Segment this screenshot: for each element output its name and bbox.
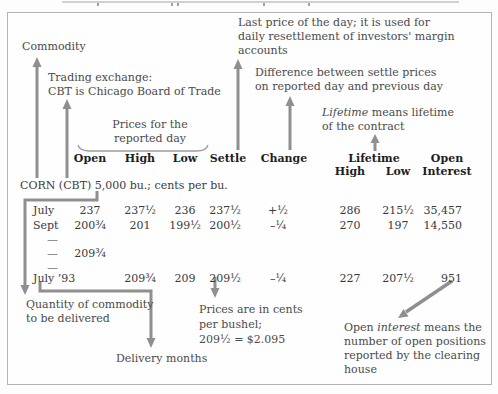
cell-high: 201 bbox=[116, 219, 164, 232]
table-row: Sept 200¾ 201 199½ 200½ –¼ 270 197 14,55… bbox=[0, 219, 498, 233]
interest-italic: interest bbox=[377, 321, 420, 334]
annotation-line: Open interest means the bbox=[344, 321, 486, 335]
annotation-line: daily resettlement of investors' margin bbox=[238, 30, 455, 44]
annotation-line: number of open positions bbox=[344, 335, 486, 349]
annotation-line: house bbox=[344, 363, 486, 377]
col-header-lifetime-high: High bbox=[326, 165, 374, 178]
annotation-line: Delivery months bbox=[116, 352, 207, 366]
cell-settle: 200½ bbox=[201, 219, 249, 232]
cents-note: Prices are in cents per bushel; 209½ = $… bbox=[199, 302, 303, 347]
annotation-text: means lifetime bbox=[368, 106, 454, 119]
cell-month: July ’93 bbox=[33, 272, 91, 285]
delivery-months-note: Delivery months bbox=[116, 352, 207, 366]
cell-high: 209¾ bbox=[116, 272, 164, 285]
cell-open-interest: 35,457 bbox=[400, 204, 462, 217]
annotation-line: of the contract bbox=[322, 120, 454, 134]
annotation-line: per bushel; bbox=[199, 317, 303, 332]
annotation-line: to be delivered bbox=[26, 312, 153, 326]
annotation-line: reported day bbox=[106, 132, 194, 146]
col-header-settle: Settle bbox=[201, 152, 255, 165]
quantity-note: Quantity of commodity to be delivered bbox=[26, 298, 153, 326]
annotation-line: Last price of the day; it is used for bbox=[238, 16, 455, 30]
cell-change: +½ bbox=[254, 204, 302, 217]
table-row: July 237 237½ 236 237½ +½ 286 215½ 35,45… bbox=[0, 204, 498, 218]
annotation-text: Open bbox=[344, 321, 377, 334]
annotation-line: Trading exchange: bbox=[48, 71, 221, 85]
col-header-lifetime-low: Low bbox=[374, 165, 422, 178]
table-row-ellipsis: — bbox=[0, 233, 498, 247]
cell-high: 237½ bbox=[116, 204, 164, 217]
cell-open: 200¾ bbox=[66, 219, 114, 232]
cell-settle: 209½ bbox=[201, 272, 249, 285]
lifetime-italic: Lifetime bbox=[322, 106, 368, 119]
table-row-ellipsis: — 209¾ bbox=[0, 247, 498, 261]
figure-canvas: Commodity Trading exchange: CBT is Chica… bbox=[0, 0, 498, 394]
lifetime-note: Lifetime means lifetime of the contract bbox=[322, 106, 454, 134]
table-row: July ’93 209¾ 209 209½ –¼ 227 207½ 951 bbox=[0, 272, 498, 286]
annotation-line: accounts bbox=[238, 44, 455, 58]
col-header-open-interest-2: Interest bbox=[417, 165, 477, 178]
col-header-change: Change bbox=[256, 152, 312, 165]
annotation-line: Difference between settle prices bbox=[255, 66, 443, 80]
cell-lifetime-high: 227 bbox=[326, 272, 374, 285]
cell-open-interest: 951 bbox=[400, 272, 462, 285]
annotation-text: means the bbox=[421, 321, 482, 334]
annotation-line: Prices for the bbox=[106, 118, 194, 132]
cell-settle: 237½ bbox=[201, 204, 249, 217]
exchange-note: Trading exchange: CBT is Chicago Board o… bbox=[48, 71, 221, 99]
prices-reported-note: Prices for the reported day bbox=[106, 118, 194, 146]
col-header-high: High bbox=[116, 152, 164, 165]
col-header-open-interest-1: Open bbox=[417, 152, 477, 165]
col-header-lifetime: Lifetime bbox=[334, 152, 414, 165]
annotation-line: on reported day and previous day bbox=[255, 80, 443, 94]
cell-open: 237 bbox=[66, 204, 114, 217]
cell-change: –¼ bbox=[254, 219, 302, 232]
annotation-line: CBT is Chicago Board of Trade bbox=[48, 85, 221, 99]
commodity-label: Commodity bbox=[22, 40, 86, 54]
cell-lifetime-high: 286 bbox=[326, 204, 374, 217]
annotation-line: Commodity bbox=[22, 40, 86, 54]
contract-title: CORN (CBT) 5,000 bu.; cents per bu. bbox=[20, 179, 228, 192]
open-interest-note: Open interest means the number of open p… bbox=[344, 321, 486, 377]
settle-note: Last price of the day; it is used for da… bbox=[238, 16, 455, 58]
annotation-line: reported by the clearing bbox=[344, 349, 486, 363]
change-note: Difference between settle prices on repo… bbox=[255, 66, 443, 94]
cell-open: 209¾ bbox=[66, 247, 114, 260]
cell-open-interest: 14,550 bbox=[400, 219, 462, 232]
annotation-line: Quantity of commodity bbox=[26, 298, 153, 312]
annotation-line: 209½ = $2.095 bbox=[199, 332, 303, 347]
cell-month: — bbox=[33, 233, 105, 246]
annotation-line: Prices are in cents bbox=[199, 302, 303, 317]
cell-lifetime-high: 270 bbox=[326, 219, 374, 232]
col-header-open: Open bbox=[66, 152, 114, 165]
annotation-line: Lifetime means lifetime bbox=[322, 106, 454, 120]
cell-change: –¼ bbox=[254, 272, 302, 285]
